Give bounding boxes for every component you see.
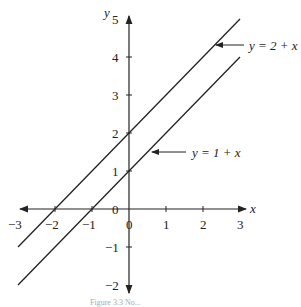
y-tick-label: −2 [105, 278, 119, 293]
label-line2: y = 1 + x [190, 145, 241, 160]
label-line1: y = 2 + x [247, 38, 298, 53]
y-tick-label: 3 [112, 88, 119, 103]
chart: y = 2 + x y = 1 + x x y −3 −2 −1 0 1 2 3… [0, 0, 301, 307]
x-tick-label: 0 [126, 217, 133, 232]
y-tick-label: 4 [112, 50, 119, 65]
y-tick-label: −1 [105, 240, 119, 255]
y-tick-label: 5 [112, 12, 119, 27]
y-tick-label: 1 [112, 164, 119, 179]
y-tick-label: 2 [112, 126, 119, 141]
x-axis-label: x [249, 201, 256, 216]
figure-caption: Figure 3.3 No... [90, 298, 141, 307]
x-tick-label: −2 [45, 217, 59, 232]
x-tick-label: 2 [200, 217, 207, 232]
y-tick-label: 0 [112, 202, 119, 217]
x-tick-label: −1 [82, 217, 96, 232]
x-tick-label: −3 [8, 217, 22, 232]
y-axis-label: y [102, 5, 110, 20]
x-tick-label: 3 [237, 217, 244, 232]
x-tick-label: 1 [163, 217, 170, 232]
